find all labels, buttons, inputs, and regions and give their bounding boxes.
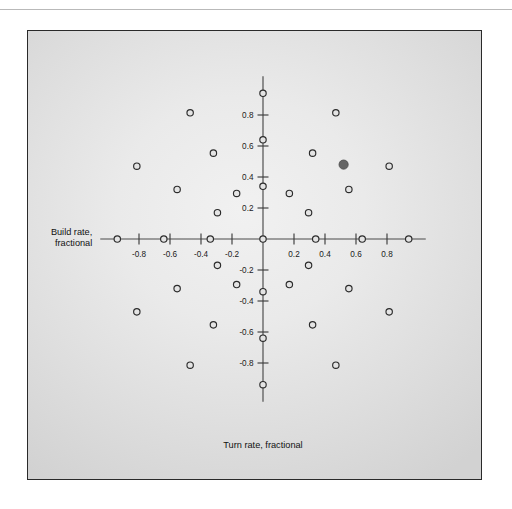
data-point xyxy=(210,150,216,156)
top-divider-rule xyxy=(0,9,512,10)
scatter-plot: -0.8-0.6-0.4-0.20.20.40.60.80.80.60.40.2… xyxy=(28,31,483,481)
data-point xyxy=(214,262,220,268)
x-axis-title: Turn rate, fractional xyxy=(223,440,302,450)
data-point xyxy=(260,90,266,96)
y-axis-tick-label: 0.2 xyxy=(242,204,254,213)
data-point xyxy=(313,236,319,242)
data-point xyxy=(114,236,120,242)
y-axis-tick-label: -0.6 xyxy=(239,328,254,337)
data-point xyxy=(305,209,311,215)
y-axis-tick-label: -0.2 xyxy=(239,266,254,275)
data-point xyxy=(174,186,180,192)
y-axis-title-line1: Build rate, xyxy=(51,227,92,237)
data-point xyxy=(305,262,311,268)
data-point xyxy=(233,190,239,196)
data-point xyxy=(386,163,392,169)
data-point xyxy=(214,209,220,215)
data-point xyxy=(161,236,167,242)
data-point xyxy=(333,110,339,116)
data-point xyxy=(210,322,216,328)
highlighted-data-point xyxy=(339,160,348,169)
data-point xyxy=(260,183,266,189)
x-axis-tick-label: 0.2 xyxy=(288,250,300,259)
x-axis-tick-label: 0.4 xyxy=(319,250,331,259)
y-axis-tick-label: 0.6 xyxy=(242,142,254,151)
y-axis-title-line2: fractional xyxy=(55,238,92,248)
data-point xyxy=(286,281,292,287)
data-point xyxy=(286,190,292,196)
x-axis-tick-label: -0.4 xyxy=(194,250,209,259)
data-point xyxy=(406,236,412,242)
data-point xyxy=(386,309,392,315)
data-point xyxy=(260,137,266,143)
y-axis-tick-label: -0.8 xyxy=(239,359,254,368)
y-axis-tick-label: -0.4 xyxy=(239,297,254,306)
data-point xyxy=(359,236,365,242)
data-point xyxy=(134,163,140,169)
data-point xyxy=(260,289,266,295)
x-axis-tick-label: -0.8 xyxy=(132,250,147,259)
data-point xyxy=(346,186,352,192)
data-point xyxy=(309,150,315,156)
figure-panel: -0.8-0.6-0.4-0.20.20.40.60.80.80.60.40.2… xyxy=(27,30,482,480)
data-point xyxy=(260,382,266,388)
x-axis-tick-label: 0.6 xyxy=(350,250,362,259)
data-point xyxy=(333,362,339,368)
data-point xyxy=(233,281,239,287)
data-point xyxy=(174,285,180,291)
data-point xyxy=(134,309,140,315)
data-point xyxy=(260,236,266,242)
data-point xyxy=(187,110,193,116)
data-point xyxy=(187,362,193,368)
y-axis-tick-label: 0.8 xyxy=(242,111,254,120)
data-point xyxy=(346,285,352,291)
data-point xyxy=(309,322,315,328)
data-point xyxy=(207,236,213,242)
x-axis-tick-label: -0.2 xyxy=(225,250,240,259)
data-point xyxy=(260,335,266,341)
x-axis-tick-label: -0.6 xyxy=(163,250,178,259)
y-axis-tick-label: 0.4 xyxy=(242,173,254,182)
x-axis-tick-label: 0.8 xyxy=(381,250,393,259)
